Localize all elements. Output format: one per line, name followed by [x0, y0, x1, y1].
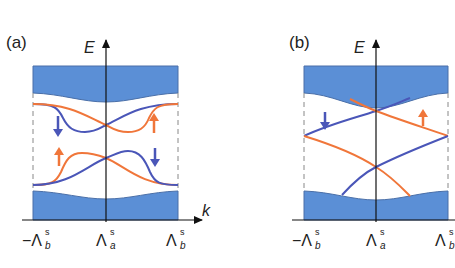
band-structure-diagram: (a) E — [0, 0, 455, 268]
edge-state-orange-lower — [304, 136, 410, 196]
svg-text:s: s — [315, 227, 320, 237]
svg-text:s: s — [380, 227, 385, 237]
spin-down-arrow-icon — [150, 148, 160, 167]
svg-text:a: a — [110, 240, 116, 251]
spin-up-arrow-icon — [418, 109, 428, 126]
tick-label-lambda-b: Λ s b — [166, 227, 186, 251]
panel-a: (a) E — [6, 33, 211, 251]
svg-text:Λ: Λ — [366, 232, 377, 249]
tick-label-lambda-a: Λ s a — [96, 227, 116, 251]
svg-text:a: a — [380, 240, 386, 251]
panel-b-label: (b) — [289, 33, 310, 52]
tick-label-lambda-a: Λ s a — [366, 227, 386, 251]
panel-a-label: (a) — [6, 33, 27, 52]
svg-text:−Λ: −Λ — [22, 232, 42, 249]
svg-text:s: s — [45, 227, 50, 237]
svg-text:Λ: Λ — [96, 232, 107, 249]
svg-text:s: s — [449, 227, 454, 237]
edge-state-blue-lower — [342, 136, 448, 195]
tick-label-neg-lambda-b: −Λ s b — [292, 227, 321, 251]
e-axis-label: E — [84, 39, 95, 56]
svg-text:b: b — [45, 240, 51, 251]
spin-down-arrow-icon — [53, 116, 63, 137]
svg-text:Λ: Λ — [166, 232, 177, 249]
spin-up-arrow-icon — [54, 147, 64, 166]
svg-text:−Λ: −Λ — [292, 232, 312, 249]
tick-label-neg-lambda-b: −Λ s b — [22, 227, 51, 251]
svg-text:b: b — [180, 240, 186, 251]
panel-b: (b) E −Λ s b Λ — [289, 33, 455, 251]
svg-text:s: s — [180, 227, 185, 237]
svg-text:b: b — [315, 240, 321, 251]
e-axis-label: E — [354, 39, 365, 56]
svg-text:Λ: Λ — [435, 232, 446, 249]
svg-text:s: s — [110, 227, 115, 237]
tick-label-lambda-b: Λ s b — [435, 227, 455, 251]
k-axis-label: k — [202, 202, 211, 219]
svg-text:b: b — [449, 240, 455, 251]
